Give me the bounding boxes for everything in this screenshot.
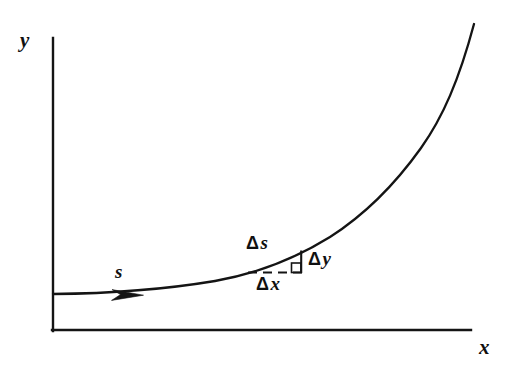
delta-x-variable: x xyxy=(269,273,280,294)
delta-s-variable: s xyxy=(259,232,268,253)
right-angle-square-marker xyxy=(292,263,302,273)
curve-group xyxy=(53,24,474,294)
delta-y-label: Δy xyxy=(308,249,331,268)
arc-length-label: s xyxy=(115,262,122,281)
figure-canvas xyxy=(0,0,513,373)
delta-y-variable: y xyxy=(321,248,331,269)
delta-x-label: Δx xyxy=(256,274,280,293)
delta-y-prefix: Δ xyxy=(308,249,321,269)
delta-x-prefix: Δ xyxy=(256,274,269,294)
delta-triangle-group xyxy=(248,251,302,274)
delta-s-label: Δs xyxy=(246,233,268,252)
figure-root: y x s Δs Δy Δx xyxy=(0,0,513,373)
function-curve xyxy=(53,24,474,294)
delta-s-prefix: Δ xyxy=(246,233,259,253)
y-axis-label: y xyxy=(20,30,29,51)
x-axis-label: x xyxy=(479,337,490,358)
